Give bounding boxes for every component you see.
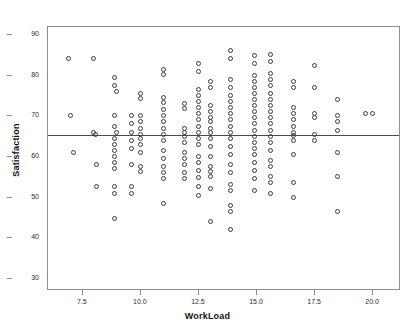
data-point [312,63,317,68]
data-point [196,168,201,173]
data-point [208,164,213,169]
data-point [228,188,233,193]
y-axis-tick-label: 30 [17,274,39,282]
data-point [208,119,213,124]
data-point [182,162,187,167]
data-point [112,136,117,141]
y-axis-tick-label: 50 [17,193,39,201]
y-axis-tick [7,115,12,116]
data-point [138,150,143,155]
data-point [228,111,233,116]
data-point [228,48,233,53]
data-point [208,103,213,108]
y-axis-tick [7,156,12,157]
data-point [129,138,134,143]
x-axis-tick-label: 7.5 [67,297,97,306]
x-axis-tick-label: 12.5 [183,297,213,306]
data-point [291,117,296,122]
data-point [94,162,99,167]
data-point [138,142,143,147]
data-point [182,150,187,155]
data-point [335,97,340,102]
data-point [129,184,134,189]
data-point [312,85,317,90]
data-point [182,156,187,161]
data-point [291,195,296,200]
data-point [252,79,257,84]
data-point [208,144,213,149]
data-point [252,160,257,165]
data-point [161,100,166,105]
data-point [252,115,257,120]
y-axis-tick [7,237,12,238]
y-axis-tick [7,34,12,35]
data-point [182,176,187,181]
x-axis-tick-label: 15.0 [241,297,271,306]
y-axis-tick-label: 70 [17,111,39,119]
data-point [138,119,143,124]
data-point [161,164,166,169]
plot-frame [47,26,400,290]
data-point [228,227,233,232]
data-point [335,174,340,179]
data-point [228,93,233,98]
data-point [228,162,233,167]
data-point [268,148,273,153]
data-point [268,158,273,163]
data-point [228,85,233,90]
data-point [129,191,134,196]
data-point [182,106,187,111]
data-point [291,111,296,116]
x-axis-tick [198,290,199,295]
data-point [228,144,233,149]
data-point [182,170,187,175]
data-point [268,164,273,169]
data-point [161,156,166,161]
data-point [161,67,166,72]
data-point [208,136,213,141]
data-point [228,170,233,175]
data-point [268,121,273,126]
data-point [252,152,257,157]
y-axis-tick [7,278,12,279]
data-point [129,130,134,135]
data-point [138,136,143,141]
data-point [291,152,296,157]
data-point [112,154,117,159]
data-point [71,150,76,155]
data-point [312,115,317,120]
data-point [129,162,134,167]
data-point [112,216,117,221]
data-point [161,113,166,118]
data-point [161,170,166,175]
data-point [196,87,201,92]
data-point [291,124,296,129]
data-point [196,130,201,135]
x-axis-tick [314,290,315,295]
data-point [268,77,273,82]
data-point [228,117,233,122]
x-axis-tick [140,290,141,295]
data-point [208,79,213,84]
data-point [208,186,213,191]
data-point [228,105,233,110]
data-point [196,111,201,116]
data-point [228,99,233,104]
y-axis-tick-label: 80 [17,71,39,79]
data-point [208,219,213,224]
x-axis-tick [82,290,83,295]
data-point [91,56,96,61]
x-axis-tick-label: 17.5 [299,297,329,306]
data-point [252,91,257,96]
y-axis-tick-label: 90 [17,30,39,38]
data-point [112,142,117,147]
data-point [268,103,273,108]
data-point [196,175,201,180]
data-point [252,188,257,193]
data-point [268,52,273,57]
data-point [129,121,134,126]
data-point [196,193,201,198]
data-point [161,201,166,206]
data-point [291,138,296,143]
data-point [66,56,71,61]
